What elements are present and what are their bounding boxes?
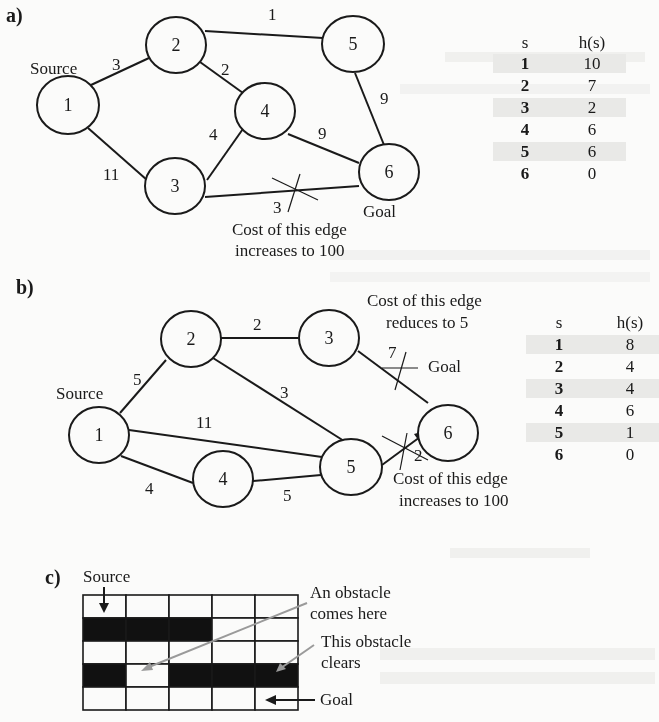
panel-c-label: c)	[45, 566, 61, 589]
svg-text:3: 3	[555, 379, 564, 398]
graph-node: 2	[146, 17, 206, 73]
panel-a-label: a)	[6, 4, 23, 27]
edge-cost: 4	[209, 125, 218, 144]
panel-a-nodes: 1 2 3 4 5 6	[37, 16, 419, 214]
edge-cost: 3	[280, 383, 289, 402]
table-header: s	[522, 33, 529, 52]
heuristic-table-a: s h(s) 1 10 2 7 3 2 4 6 5 6 6 0	[493, 33, 626, 183]
obstacle-comes-label: comes here	[310, 604, 387, 623]
edge-b-1-4	[121, 456, 193, 483]
grid-cell-free	[212, 618, 255, 641]
grid-cell-free	[126, 595, 169, 618]
grid-cell-free	[169, 687, 212, 710]
heuristic-table-b: s h(s) 1 8 2 4 3 4 4 6 5 1 6 0	[526, 313, 659, 464]
edge-cost: 1	[268, 5, 277, 24]
grid-cell-free	[212, 641, 255, 664]
edge-cost: 3	[112, 55, 121, 74]
edge-cost: 7	[388, 343, 397, 362]
svg-text:7: 7	[588, 76, 597, 95]
grid-cell-free	[83, 687, 126, 710]
edge-b-2-5	[213, 358, 344, 441]
svg-text:4: 4	[555, 401, 564, 420]
panel-a: a) 3 11 1 2 4 9 9 3 1	[6, 4, 626, 260]
grid-cell-free	[255, 687, 298, 710]
grid-cell-obstacle	[169, 664, 212, 687]
table-header: h(s)	[579, 33, 605, 52]
edge-cost: 11	[196, 413, 212, 432]
grid-cell-obstacle	[83, 618, 126, 641]
obstacle-comes-label: An obstacle	[310, 583, 391, 602]
edge-annotation: increases to 100	[235, 241, 345, 260]
svg-text:6: 6	[555, 445, 564, 464]
source-label: Source	[30, 59, 77, 78]
graph-node: 6	[418, 405, 478, 461]
graph-node: 3	[299, 310, 359, 366]
graph-node: 1	[69, 407, 129, 463]
svg-text:2: 2	[555, 357, 564, 376]
obstacle-clears-label: This obstacle	[321, 632, 411, 651]
goal-label: Goal	[320, 690, 353, 709]
svg-text:10: 10	[584, 54, 601, 73]
panel-c: c) Source An obstacle comes here This ob…	[45, 566, 411, 710]
edge-annotation: increases to 100	[399, 491, 509, 510]
svg-text:1: 1	[555, 335, 564, 354]
grid-cell-free	[169, 595, 212, 618]
graph-node: 4	[193, 451, 253, 507]
source-label: Source	[83, 567, 130, 586]
svg-text:8: 8	[626, 335, 635, 354]
edge-cost: 2	[414, 446, 423, 465]
graph-node: 2	[161, 311, 221, 367]
edge-annotation: Cost of this edge	[367, 291, 482, 310]
occupancy-grid	[83, 595, 298, 710]
graph-node: 5	[322, 16, 384, 72]
graph-node: 5	[320, 439, 382, 495]
grid-cell-obstacle	[83, 664, 126, 687]
svg-text:3: 3	[521, 98, 530, 117]
svg-text:3: 3	[171, 176, 180, 196]
edge-annotation: Cost of this edge	[393, 469, 508, 488]
svg-text:6: 6	[588, 142, 597, 161]
edge-b-1-2	[120, 360, 166, 413]
svg-text:2: 2	[187, 329, 196, 349]
svg-text:2: 2	[172, 35, 181, 55]
edge-cost: 2	[221, 60, 230, 79]
svg-text:1: 1	[64, 95, 73, 115]
grid-cell-obstacle	[169, 618, 212, 641]
edge-annotation: Cost of this edge	[232, 220, 347, 239]
svg-text:0: 0	[626, 445, 635, 464]
edge-b-4-5	[253, 475, 321, 481]
edge-cross-mark	[288, 174, 300, 212]
svg-text:4: 4	[626, 357, 635, 376]
edge-cost: 5	[133, 370, 142, 389]
table-rows: 1 8 2 4 3 4 4 6 5 1 6 0	[555, 335, 635, 464]
graph-node: 4	[235, 83, 295, 139]
source-label: Source	[56, 384, 103, 403]
edge-cost: 5	[283, 486, 292, 505]
svg-text:3: 3	[325, 328, 334, 348]
edge-cost: 3	[273, 198, 282, 217]
grid-cell-free	[83, 641, 126, 664]
graph-node: 3	[145, 158, 205, 214]
svg-text:2: 2	[521, 76, 530, 95]
svg-text:5: 5	[555, 423, 564, 442]
panel-b: b) 5 11 4 2 3 5 7 2	[16, 276, 659, 510]
svg-text:1: 1	[521, 54, 530, 73]
grid-cell-free	[126, 687, 169, 710]
svg-text:0: 0	[588, 164, 597, 183]
svg-text:2: 2	[588, 98, 597, 117]
grid-cell-obstacle	[255, 664, 298, 687]
svg-text:1: 1	[95, 425, 104, 445]
graph-node: 1	[37, 76, 99, 134]
grid-cell-obstacle	[126, 618, 169, 641]
svg-text:4: 4	[261, 101, 270, 121]
svg-text:5: 5	[347, 457, 356, 477]
table-header: h(s)	[617, 313, 643, 332]
obstacle-clears-label: clears	[321, 653, 361, 672]
svg-text:6: 6	[444, 423, 453, 443]
svg-text:6: 6	[626, 401, 635, 420]
edge-cost: 11	[103, 165, 119, 184]
svg-text:6: 6	[588, 120, 597, 139]
edge-a-3-6	[205, 186, 359, 197]
svg-text:6: 6	[521, 164, 530, 183]
svg-text:4: 4	[219, 469, 228, 489]
